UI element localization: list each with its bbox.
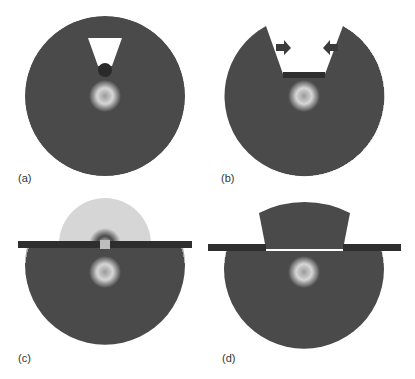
point-source-icon	[98, 63, 112, 77]
arrow-right-icon	[276, 40, 291, 55]
panel-b	[225, 26, 385, 176]
panel-label-b: (b)	[221, 172, 234, 184]
panel-label-d: (d)	[222, 352, 235, 364]
panel-d	[208, 202, 401, 349]
barrier-right	[343, 244, 401, 251]
wave-rings	[225, 26, 385, 176]
panel-label-a: (a)	[18, 172, 31, 184]
panel-c	[18, 198, 192, 345]
wave-rings-below	[224, 251, 384, 349]
barrier-left	[208, 244, 266, 251]
diffraction-figure	[0, 0, 415, 379]
panel-label-c: (c)	[18, 352, 31, 364]
wave-rings-below	[25, 247, 185, 345]
panel-a	[25, 16, 185, 176]
wave-cap	[259, 202, 350, 249]
gap-bar	[283, 72, 325, 78]
aperture	[100, 240, 110, 249]
wave-rings-above	[59, 198, 151, 244]
